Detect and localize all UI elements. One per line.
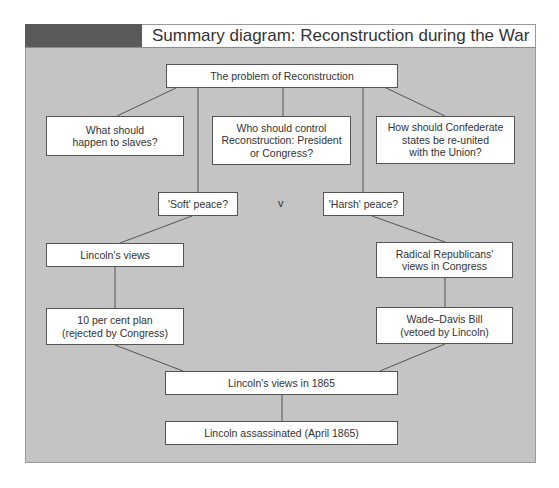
harsh-peace-node: 'Harsh' peace? xyxy=(323,192,404,216)
question-control-node: Who should control Reconstruction: Presi… xyxy=(212,116,351,165)
assassination-node: Lincoln assassinated (April 1865) xyxy=(165,421,398,445)
soft-peace-node: 'Soft' peace? xyxy=(158,192,238,216)
question-slaves-node: What should happen to slaves? xyxy=(46,116,184,156)
lincoln-views-node: Lincoln's views xyxy=(46,243,184,267)
root-node: The problem of Reconstruction xyxy=(166,64,398,88)
versus-label: v xyxy=(278,197,284,209)
root-node-label: The problem of Reconstruction xyxy=(210,70,354,83)
question-confederate-node: How should Confederate states be re-unit… xyxy=(376,116,515,164)
radical-republicans-node: Radical Republicans' views in Congress xyxy=(376,242,513,278)
lincoln-1865-node: Lincoln's views in 1865 xyxy=(165,371,398,395)
ten-percent-plan-node: 10 per cent plan (rejected by Congress) xyxy=(46,308,184,345)
wade-davis-bill-node: Wade–Davis Bill (vetoed by Lincoln) xyxy=(376,307,513,344)
